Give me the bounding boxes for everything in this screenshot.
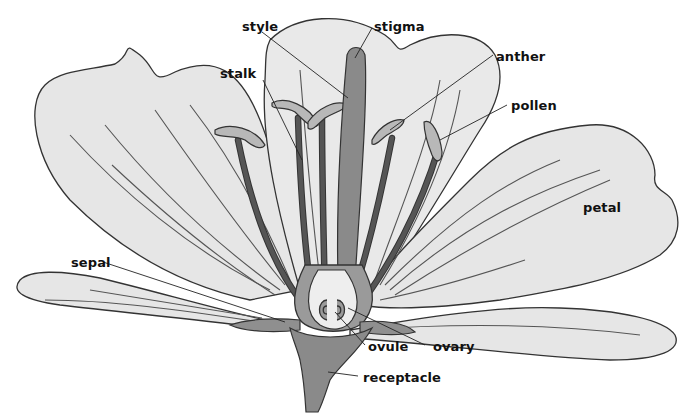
receptacle (290, 328, 372, 412)
label-receptacle: receptacle (363, 371, 441, 384)
label-ovary: ovary (433, 340, 475, 353)
label-ovule: ovule (368, 340, 408, 353)
ovary-structure (295, 265, 373, 331)
label-petal: petal (583, 201, 621, 214)
label-style: style (242, 20, 278, 33)
label-sepal: sepal (71, 256, 111, 269)
label-pollen: pollen (511, 99, 557, 112)
label-anther: anther (496, 50, 545, 63)
label-stigma: stigma (374, 20, 425, 33)
label-stalk: stalk (220, 67, 256, 80)
